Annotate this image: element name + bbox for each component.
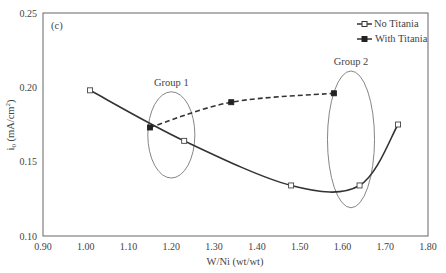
chart: 0.100.150.200.25 0.901.001.101.201.301.4… <box>0 0 446 273</box>
data-point-marker <box>357 183 362 188</box>
x-axis-ticks: 0.901.001.101.201.301.401.501.601.701.80 <box>34 241 437 252</box>
x-tick-label: 1.10 <box>120 241 138 252</box>
data-point-marker <box>289 183 294 188</box>
data-point-marker <box>396 122 401 127</box>
x-tick-label: 1.80 <box>419 241 437 252</box>
svg-text:With Titania: With Titania <box>375 33 428 44</box>
x-tick-label: 1.00 <box>77 241 95 252</box>
data-point-marker <box>88 88 93 93</box>
group-label: Group 1 <box>154 77 189 88</box>
y-tick-label: 0.25 <box>20 8 38 19</box>
svg-text:No Titania: No Titania <box>374 18 419 29</box>
data-point-marker <box>229 100 234 105</box>
data-point-marker <box>182 138 187 143</box>
panel-label: (c) <box>51 20 63 32</box>
y-tick-label: 0.10 <box>20 231 38 242</box>
open-square-marker-icon <box>362 22 367 27</box>
plot-area <box>43 13 428 236</box>
data-point-marker <box>331 91 336 96</box>
x-tick-label: 1.50 <box>291 241 309 252</box>
y-tick-label: 0.15 <box>20 156 38 167</box>
data-point-marker <box>147 125 152 130</box>
y-tick-label: 0.20 <box>20 82 38 93</box>
x-tick-label: 1.30 <box>205 241 223 252</box>
x-tick-label: 1.70 <box>376 241 394 252</box>
x-tick-label: 1.40 <box>248 241 266 252</box>
x-tick-label: 1.60 <box>334 241 352 252</box>
group-label: Group 2 <box>334 56 369 67</box>
x-tick-label: 0.90 <box>34 241 52 252</box>
y-axis-label: i0 (mA/cm2) <box>4 99 18 151</box>
filled-square-marker-icon <box>362 37 367 42</box>
y-axis-ticks: 0.100.150.200.25 <box>20 8 38 242</box>
x-axis-label: W/Ni (wt/wt) <box>207 256 264 268</box>
x-tick-label: 1.20 <box>163 241 181 252</box>
